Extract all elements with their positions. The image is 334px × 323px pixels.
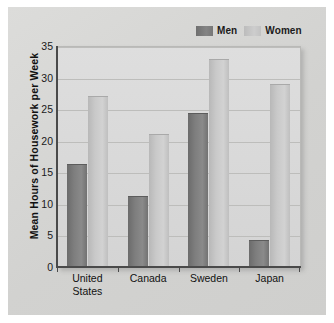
y-tick-label: 0 (31, 261, 53, 273)
bar-men (128, 196, 148, 268)
y-tick-label: 15 (31, 166, 53, 178)
bar-men (249, 240, 269, 268)
chart-figure: Men Women Mean Hours of Housework per We… (0, 0, 334, 323)
y-axis-line (56, 46, 58, 267)
x-category-label: Japan (255, 272, 284, 285)
bar-women (270, 84, 290, 268)
bar-women (209, 59, 229, 268)
bar-women (88, 96, 108, 268)
plot-grid-and-bars (57, 47, 300, 268)
chart-legend: Men Women (196, 23, 302, 38)
x-axis-category-labels: United StatesCanadaSwedenJapan (57, 272, 300, 308)
legend-entry-women: Women (244, 25, 301, 36)
bar-men (188, 113, 208, 268)
bar-women (149, 134, 169, 268)
x-tick (179, 268, 180, 272)
x-tick (118, 268, 119, 272)
x-tick (57, 268, 58, 272)
legend-label-men: Men (217, 25, 237, 36)
y-tick-label: 20 (31, 135, 53, 147)
x-category-label: Canada (130, 272, 167, 285)
bar-men (67, 164, 87, 268)
x-tick (299, 268, 300, 272)
y-axis-tick-labels: 05101520253035 (27, 46, 53, 267)
legend-entry-men: Men (196, 25, 237, 36)
y-tick-label: 25 (31, 103, 53, 115)
x-category-label: United States (72, 272, 102, 298)
y-tick-label: 5 (31, 229, 53, 241)
x-axis-ticks (57, 268, 300, 273)
legend-swatch-men-icon (196, 26, 213, 36)
y-tick-label: 30 (31, 72, 53, 84)
legend-label-women: Women (265, 25, 301, 36)
legend-swatch-women-icon (244, 26, 261, 36)
y-tick-label: 10 (31, 198, 53, 210)
gridline (57, 47, 300, 48)
gridline (57, 79, 300, 80)
y-tick-label: 35 (31, 40, 53, 52)
x-category-label: Sweden (190, 272, 228, 285)
x-tick (239, 268, 240, 272)
plot-area (57, 46, 301, 268)
